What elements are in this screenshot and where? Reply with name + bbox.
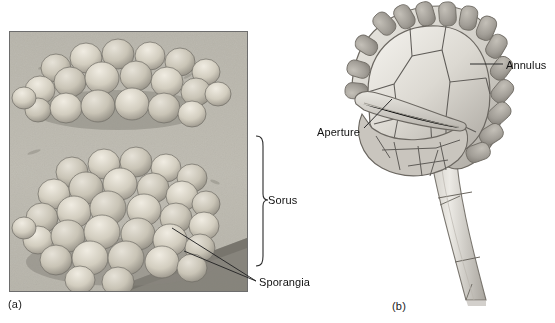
- figure-root: (a): [0, 0, 555, 323]
- panel-a: (a): [0, 0, 290, 323]
- callout-sporangia: Sporangia: [259, 276, 310, 288]
- sporangium-stalk: [430, 150, 486, 300]
- panel-b: (b): [290, 0, 555, 323]
- callout-annulus: Annulus: [506, 59, 546, 71]
- sporangium-drawing: [290, 0, 555, 323]
- callout-aperture: Aperture: [317, 126, 360, 138]
- micrograph-image: [10, 32, 247, 291]
- sem-micrograph: [9, 31, 248, 292]
- callout-sorus: Sorus: [268, 194, 297, 206]
- panel-b-label: (b): [392, 300, 406, 312]
- panel-a-label: (a): [8, 298, 22, 310]
